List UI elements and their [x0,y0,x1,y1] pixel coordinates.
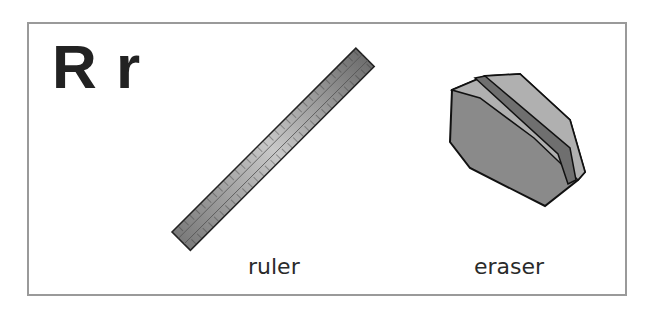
eraser-label: eraser [474,254,544,279]
eraser-icon [430,60,600,220]
ruler-icon [160,40,380,270]
ruler-label: ruler [248,254,300,279]
letter-heading: R r [52,36,141,98]
